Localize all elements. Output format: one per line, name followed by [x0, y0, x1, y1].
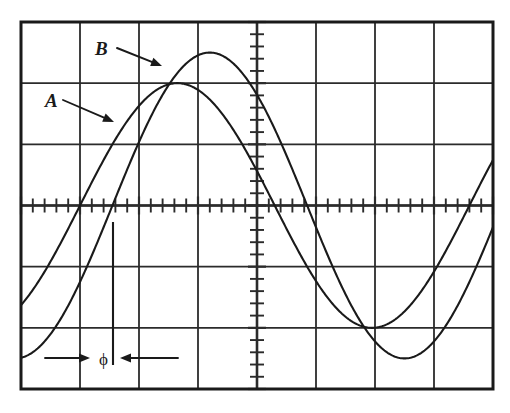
phase-label: ϕ [99, 350, 108, 369]
scope-screen: ABϕ [0, 0, 510, 413]
trace-b-label: B [94, 38, 108, 59]
oscilloscope-figure: ABϕ [0, 0, 510, 413]
trace-a-label: A [44, 90, 58, 111]
